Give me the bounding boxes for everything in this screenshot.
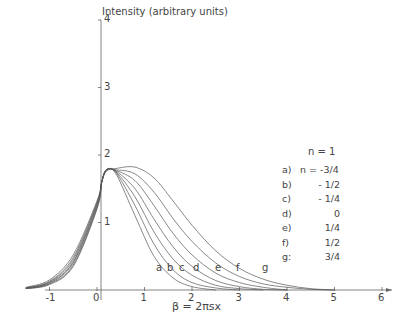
x-tick-label: 0 — [93, 292, 99, 303]
legend-item: g:3/4 — [282, 251, 340, 262]
y-tick-label: 1 — [104, 216, 110, 227]
legend-value: n = -3/4 — [300, 164, 339, 175]
legend-item: a)n = -3/4 — [282, 164, 339, 175]
legend-value: - 1/4 — [300, 193, 340, 204]
legend-item: e)1/4 — [282, 222, 340, 233]
x-tick-label: 2 — [188, 292, 194, 303]
x-tick-label: 1 — [141, 292, 147, 303]
x-axis-arrow-icon — [386, 288, 392, 292]
intensity-chart — [0, 0, 400, 320]
legend-key: c) — [282, 193, 300, 204]
legend-value: 1/4 — [300, 222, 340, 233]
curve-label-g: g — [262, 262, 268, 273]
legend-item: d)0 — [282, 208, 340, 219]
y-tick-label: 4 — [104, 13, 110, 24]
legend-item: c)- 1/4 — [282, 193, 340, 204]
curve-b — [26, 168, 240, 290]
legend-key: d) — [282, 208, 300, 219]
x-tick-label: 6 — [378, 292, 384, 303]
curve-label-d: d — [193, 262, 199, 273]
legend-key: e) — [282, 222, 300, 233]
legend-item: f)1/2 — [282, 237, 340, 248]
legend-value: 1/2 — [300, 237, 340, 248]
x-tick-label: -1 — [46, 292, 56, 303]
x-tick-label: 5 — [331, 292, 337, 303]
x-axis-label: β = 2πsx — [172, 300, 221, 313]
legend-key: a) — [282, 164, 300, 175]
legend-value: 0 — [300, 208, 340, 219]
curve-label-b: b — [167, 262, 173, 273]
curve-label-e: e — [215, 262, 221, 273]
curve-label-f: f — [236, 262, 240, 273]
legend-key: b) — [282, 179, 300, 190]
x-tick-label: 3 — [236, 292, 242, 303]
y-axis-label: Intensity (arbitrary units) — [102, 6, 228, 17]
legend-value: - 1/2 — [300, 179, 340, 190]
legend-value: 3/4 — [300, 251, 340, 262]
x-tick-label: 4 — [283, 292, 289, 303]
curve-label-a: a — [156, 262, 162, 273]
legend-key: g: — [282, 251, 300, 262]
annotation-header: n = 1 — [308, 146, 335, 157]
curve-label-c: c — [179, 262, 185, 273]
curve-c — [26, 169, 264, 290]
legend-key: f) — [282, 237, 300, 248]
legend-item: b)- 1/2 — [282, 179, 340, 190]
y-tick-label: 2 — [104, 148, 110, 159]
y-tick-label: 3 — [104, 81, 110, 92]
